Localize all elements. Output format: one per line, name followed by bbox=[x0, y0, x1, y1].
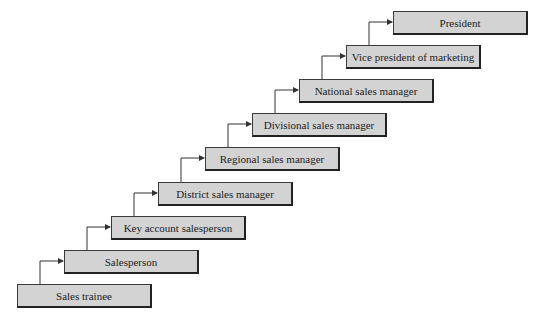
step-national-sales-manager: National sales manager bbox=[299, 79, 434, 103]
step-divisional-sales-manager: Divisional sales manager bbox=[252, 113, 387, 137]
step-district-sales-manager: District sales manager bbox=[158, 182, 293, 206]
step-key-account-salesperson: Key account salesperson bbox=[111, 216, 246, 240]
step-president: President bbox=[393, 11, 528, 35]
step-vice-president-of-marketing: Vice president of marketing bbox=[346, 45, 481, 69]
step-regional-sales-manager: Regional sales manager bbox=[205, 147, 340, 171]
step-salesperson: Salesperson bbox=[64, 250, 199, 274]
step-sales-trainee: Sales trainee bbox=[17, 284, 152, 308]
